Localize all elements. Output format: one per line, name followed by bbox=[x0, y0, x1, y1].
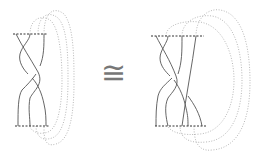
right-strands bbox=[156, 36, 202, 126]
left-strands bbox=[16, 34, 46, 126]
left-closure-loops bbox=[30, 11, 74, 145]
congruence-symbol: ≅ bbox=[100, 58, 126, 88]
left-braid bbox=[13, 11, 74, 145]
right-braid bbox=[151, 10, 250, 150]
braid-equivalence-diagram bbox=[0, 0, 255, 157]
right-closure-loops bbox=[166, 10, 250, 150]
